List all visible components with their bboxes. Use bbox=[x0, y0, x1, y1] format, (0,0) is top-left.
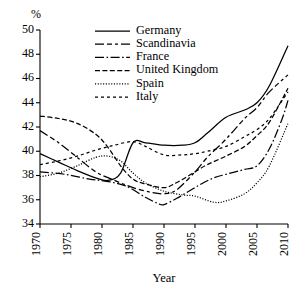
chart-canvas: %343638404244464850197019751980198519901… bbox=[0, 0, 301, 286]
x-axis-tick-label: 2010 bbox=[277, 232, 291, 256]
y-axis-tick-label: 38 bbox=[22, 167, 34, 181]
series-line-united-kingdom bbox=[40, 88, 288, 187]
y-axis-tick-label: 48 bbox=[22, 46, 34, 60]
y-axis-unit-label: % bbox=[31, 7, 41, 21]
y-axis-tick-label: 50 bbox=[22, 22, 34, 36]
x-axis-tick-label: 1970 bbox=[29, 232, 43, 256]
x-axis-tick-label: 2005 bbox=[246, 232, 260, 256]
legend-label-france: France bbox=[136, 49, 169, 63]
y-axis-tick-label: 46 bbox=[22, 70, 34, 84]
legend-label-scandinavia: Scandinavia bbox=[136, 36, 196, 50]
legend-label-italy: Italy bbox=[136, 89, 159, 103]
y-axis-tick-label: 36 bbox=[22, 192, 34, 206]
legend-label-germany: Germany bbox=[136, 23, 182, 37]
y-axis-tick-label: 42 bbox=[22, 119, 34, 133]
y-axis-tick-label: 34 bbox=[22, 216, 34, 230]
x-axis-tick-label: 1980 bbox=[91, 232, 105, 256]
y-axis-tick-label: 44 bbox=[22, 95, 34, 109]
series-line-spain bbox=[40, 123, 288, 202]
x-axis-tick-label: 1990 bbox=[153, 232, 167, 256]
x-axis-tick-label: 1995 bbox=[184, 232, 198, 256]
legend-label-united-kingdom: United Kingdom bbox=[136, 62, 219, 76]
series-line-scandinavia bbox=[40, 75, 288, 194]
line-chart: %343638404244464850197019751980198519901… bbox=[0, 0, 301, 286]
y-axis-tick-label: 40 bbox=[22, 143, 34, 157]
x-axis-title: Year bbox=[152, 271, 176, 285]
legend-label-spain: Spain bbox=[136, 76, 164, 90]
x-axis-tick-label: 2000 bbox=[215, 232, 229, 256]
x-axis-tick-label: 1975 bbox=[60, 232, 74, 256]
series-line-italy bbox=[40, 92, 288, 165]
x-axis-tick-label: 1985 bbox=[122, 232, 136, 256]
